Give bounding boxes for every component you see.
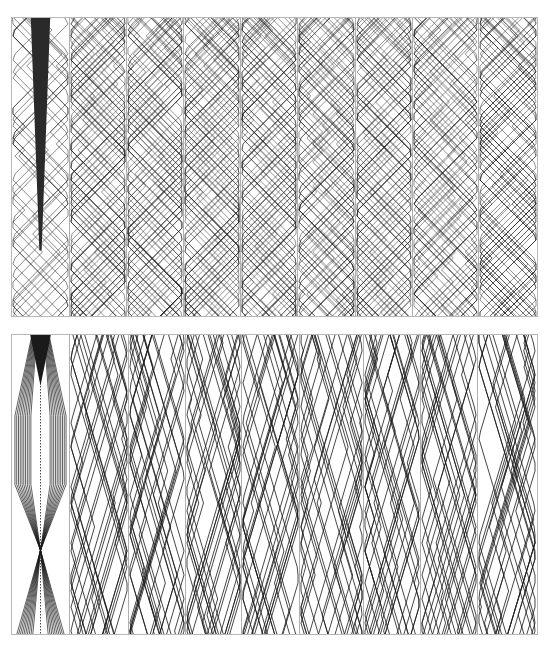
bottom-column-3-pattern: [129, 335, 185, 634]
bottom-column-5: [242, 335, 300, 634]
top-column-6: [298, 18, 356, 316]
bottom-column-7: [364, 335, 421, 634]
black-bar: [31, 18, 50, 250]
bottom-column-9-pattern: [478, 335, 536, 634]
bottom-column-9: [478, 335, 536, 634]
bottom-column-4: [186, 335, 242, 634]
top-column-7-pattern: [356, 18, 412, 316]
bottom-column-7-pattern: [364, 335, 420, 634]
bottom-column-8: [421, 335, 478, 634]
bottom-panel: [11, 334, 538, 635]
top-column-8-pattern: [413, 18, 478, 316]
top-column-4-pattern: [184, 18, 240, 316]
bottom-column-8-pattern: [421, 335, 477, 634]
top-column-2: [70, 18, 127, 316]
top-column-5-pattern: [241, 18, 297, 316]
top-column-1-pattern: [12, 18, 69, 316]
top-panel: [11, 17, 538, 317]
bottom-column-1: [12, 335, 70, 634]
top-column-6-pattern: [298, 18, 355, 316]
bottom-column-4-pattern: [186, 335, 241, 634]
top-column-3: [127, 18, 184, 316]
top-column-7: [356, 18, 413, 316]
top-column-1: [12, 18, 70, 316]
top-column-5: [241, 18, 298, 316]
top-column-4: [184, 18, 241, 316]
bottom-column-6-pattern: [300, 335, 363, 634]
top-column-9-pattern: [479, 18, 537, 316]
bottom-column-2-pattern: [70, 335, 128, 634]
top-column-9: [479, 18, 537, 316]
bottom-column-2: [70, 335, 129, 634]
top-column-8: [413, 18, 479, 316]
bottom-column-5-pattern: [242, 335, 299, 634]
bottom-column-3: [129, 335, 186, 634]
top-column-2-pattern: [70, 18, 126, 316]
bottom-column-1-pattern: [12, 335, 69, 634]
top-column-3-pattern: [127, 18, 183, 316]
bottom-column-6: [300, 335, 364, 634]
